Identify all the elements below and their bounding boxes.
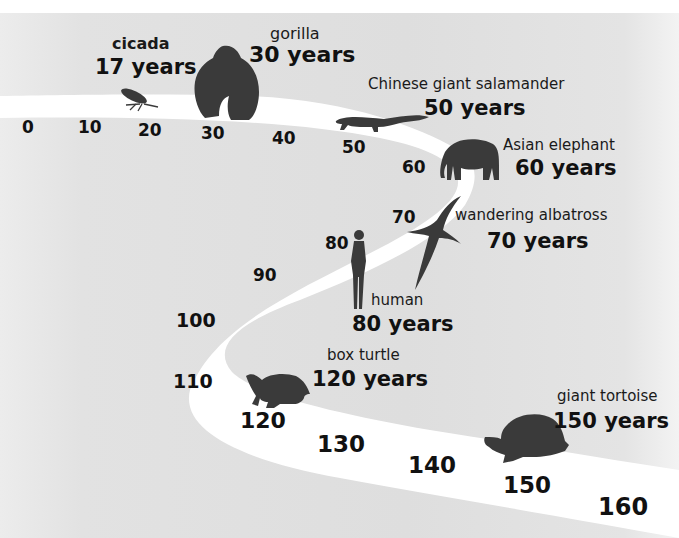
- tortoise-years: 150 years: [553, 409, 669, 433]
- turtle-years: 120 years: [312, 367, 428, 391]
- tick-100: 100: [176, 309, 216, 331]
- turtle-name: box turtle: [327, 346, 400, 364]
- tick-70: 70: [392, 207, 416, 227]
- lifespan-diagram: 0 10 20 30 40 50 60 70 80 90 100 110 120…: [0, 0, 679, 538]
- tick-140: 140: [408, 452, 456, 478]
- human-years: 80 years: [352, 312, 454, 336]
- tick-160: 160: [598, 493, 648, 521]
- human-icon: [349, 229, 369, 311]
- albatross-years: 70 years: [487, 229, 589, 253]
- tick-120: 120: [240, 408, 286, 433]
- tick-50: 50: [342, 137, 366, 157]
- tick-110: 110: [173, 370, 213, 392]
- tick-10: 10: [78, 117, 102, 137]
- albatross-name: wandering albatross: [455, 206, 607, 224]
- salamander-icon: [334, 111, 430, 133]
- cicada-icon: [116, 86, 162, 112]
- tick-20: 20: [138, 120, 162, 140]
- tick-90: 90: [253, 265, 277, 285]
- salamander-years: 50 years: [424, 96, 526, 120]
- tick-150: 150: [503, 472, 551, 498]
- tick-40: 40: [272, 128, 296, 148]
- gorilla-name: gorilla: [270, 24, 320, 43]
- tick-60: 60: [402, 157, 426, 177]
- human-name: human: [371, 291, 423, 309]
- cicada-name: cicada: [112, 34, 170, 53]
- cicada-years: 17 years: [95, 55, 197, 79]
- tick-130: 130: [317, 431, 365, 457]
- salamander-name: Chinese giant salamander: [368, 75, 564, 93]
- timeline-road: [0, 0, 679, 538]
- tick-30: 30: [201, 123, 225, 143]
- elephant-name: Asian elephant: [503, 136, 615, 154]
- tick-80: 80: [325, 233, 349, 253]
- elephant-icon: [439, 138, 501, 182]
- turtle-icon: [244, 370, 312, 410]
- gorilla-years: 30 years: [249, 42, 355, 67]
- elephant-years: 60 years: [515, 156, 617, 180]
- tortoise-name: giant tortoise: [557, 387, 658, 405]
- tick-0: 0: [22, 117, 34, 137]
